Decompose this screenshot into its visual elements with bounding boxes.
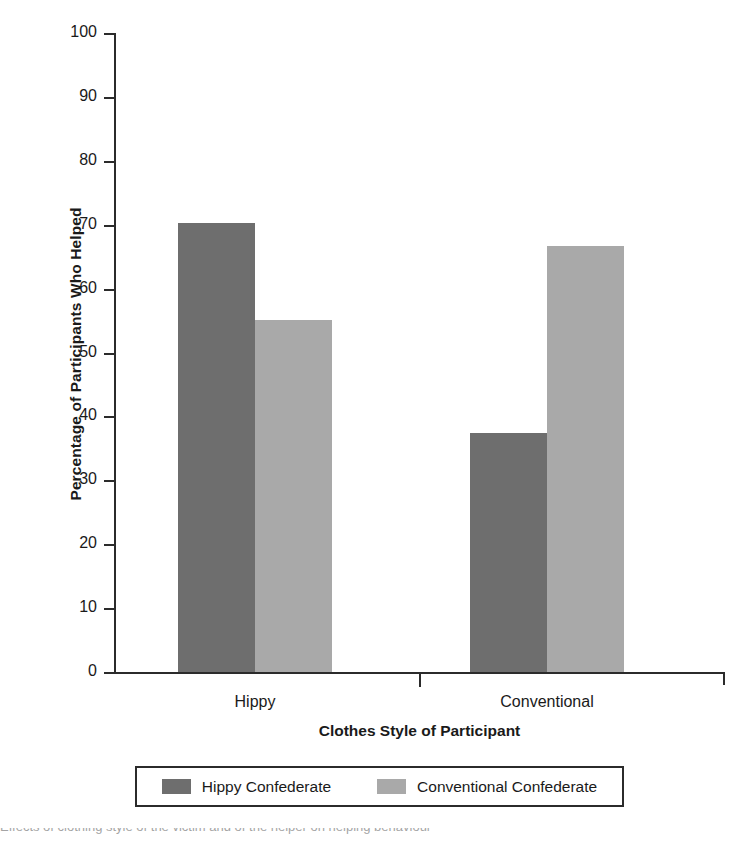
y-tick-0: 0 [104,672,114,674]
bar-hippy-conventional-confederate [255,320,332,672]
y-tick-80: 80 [104,161,114,163]
y-tick-label-0: 0 [88,662,97,680]
y-tick-10: 10 [104,608,114,610]
bar-hippy-hippy-confederate [178,223,255,672]
legend-label-conventional-confederate: Conventional Confederate [417,778,597,796]
legend-entry-conventional-confederate: Conventional Confederate [377,778,597,796]
x-category-label-hippy: Hippy [178,693,332,711]
y-tick-90: 90 [104,97,114,99]
y-tick-100: 100 [104,33,114,35]
y-tick-label-80: 80 [79,151,97,169]
y-tick-20: 20 [104,544,114,546]
bar-conventional-conventional-confederate [547,246,624,672]
x-axis-end-cap [723,672,725,685]
legend-entry-hippy-confederate: Hippy Confederate [162,778,331,796]
y-axis-line [114,33,116,674]
y-tick-label-10: 10 [79,598,97,616]
x-axis-title: Clothes Style of Participant [114,722,725,740]
bar-conventional-hippy-confederate [470,433,547,672]
y-tick-40: 40 [104,416,114,418]
legend-label-hippy-confederate: Hippy Confederate [202,778,331,796]
figure-caption-text: Effects of clothing style of the victim … [0,828,756,834]
chart-legend: Hippy Confederate Conventional Confedera… [135,766,624,807]
y-tick-label-40: 40 [79,406,97,424]
y-tick-60: 60 [104,289,114,291]
y-tick-label-50: 50 [79,343,97,361]
legend-swatch-icon-conventional-confederate [377,779,406,794]
bar-chart-figure: Percentage of Participants Who Helped 10… [0,0,756,842]
x-category-label-conventional: Conventional [470,693,624,711]
x-axis-group-separator-tick [419,674,421,687]
y-tick-label-100: 100 [70,23,97,41]
y-tick-label-90: 90 [79,87,97,105]
y-tick-50: 50 [104,353,114,355]
plot-area: 100 90 80 70 60 50 40 30 20 10 0 Hippy C… [114,33,725,672]
legend-swatch-icon-hippy-confederate [162,779,191,794]
y-tick-label-70: 70 [79,215,97,233]
y-tick-label-60: 60 [79,279,97,297]
y-tick-label-20: 20 [79,534,97,552]
y-tick-30: 30 [104,480,114,482]
y-tick-70: 70 [104,225,114,227]
figure-caption-remnant: Effects of clothing style of the victim … [0,828,756,842]
y-tick-label-30: 30 [79,470,97,488]
